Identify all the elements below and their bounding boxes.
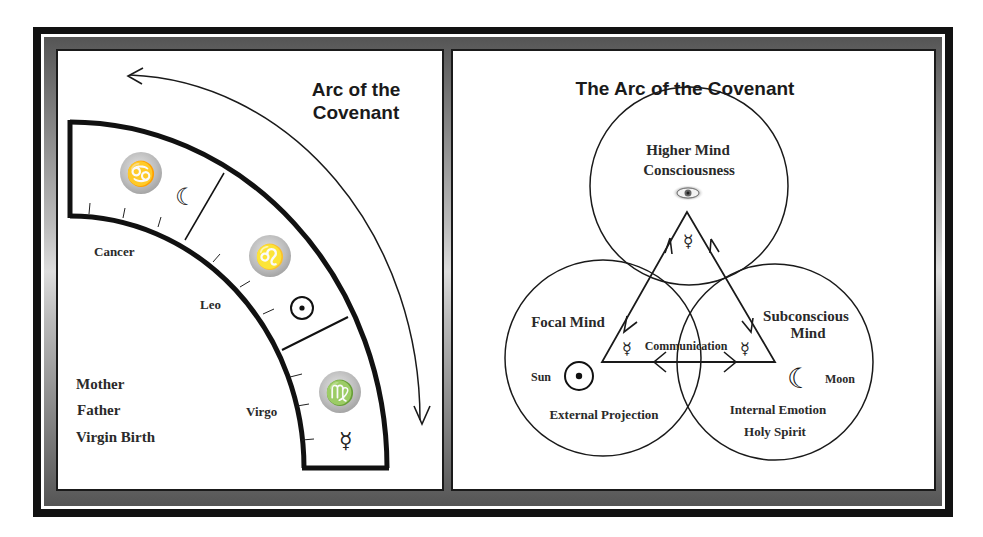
cancer-glyph-icon: ♋ bbox=[126, 160, 156, 188]
leo-label: Leo bbox=[200, 297, 221, 312]
left-side-arrow-down-icon bbox=[624, 316, 637, 332]
moon-icon: ☾ bbox=[787, 363, 812, 394]
trinity-father: Father bbox=[77, 402, 121, 418]
holy-spirit-label: Holy Spirit bbox=[744, 424, 806, 439]
eye-icon bbox=[672, 185, 704, 201]
trinity-mother: Mother bbox=[76, 376, 125, 392]
communication-label: Communication bbox=[645, 339, 728, 353]
subconscious-label: Subconscious bbox=[763, 308, 849, 324]
sun-ruler-icon bbox=[291, 297, 313, 319]
leo-glyph-icon: ♌ bbox=[255, 243, 285, 271]
mercury-right-icon: ☿ bbox=[740, 340, 750, 357]
subconscious-mind-label: Mind bbox=[790, 325, 826, 341]
cancer-label: Cancer bbox=[94, 244, 135, 259]
virgo-label: Virgo bbox=[246, 404, 277, 419]
mercury-left-icon: ☿ bbox=[622, 340, 632, 357]
left-title-line2: Covenant bbox=[313, 102, 400, 123]
higher-mind-label: Higher Mind bbox=[646, 142, 730, 158]
right-title: The Arc of the Covenant bbox=[576, 78, 796, 99]
left-title-line1: Arc of the bbox=[312, 79, 401, 100]
moon-label: Moon bbox=[825, 372, 855, 386]
divider-leo-virgo bbox=[282, 317, 348, 350]
left-diagram: ♋ ☾ ♌ ♍ ☿ Cancer Leo Virgo Mother bbox=[70, 68, 430, 468]
right-side-arrow-up-icon bbox=[710, 239, 719, 253]
sun-icon bbox=[565, 362, 593, 390]
focal-mind-circle bbox=[505, 260, 701, 456]
leo-sign-badge: ♌ bbox=[249, 235, 291, 277]
diagram-canvas: ♋ ☾ ♌ ♍ ☿ Cancer Leo Virgo Mother bbox=[0, 0, 983, 537]
focal-mind-label: Focal Mind bbox=[531, 314, 605, 330]
trinity-virgin-birth: Virgin Birth bbox=[76, 429, 156, 445]
cancer-sign-badge: ♋ bbox=[120, 152, 162, 194]
sun-label: Sun bbox=[531, 370, 551, 384]
mercury-apex-icon: ☿ bbox=[683, 232, 693, 251]
mercury-ruler-icon: ☿ bbox=[339, 428, 353, 453]
consciousness-label: Consciousness bbox=[643, 162, 735, 178]
virgo-sign-badge: ♍ bbox=[319, 371, 361, 413]
diagram-svg: ♋ ☾ ♌ ♍ ☿ Cancer Leo Virgo Mother bbox=[0, 0, 983, 537]
arrowhead-bottom-icon bbox=[414, 406, 430, 424]
internal-emotion-label: Internal Emotion bbox=[730, 402, 827, 417]
external-projection-label: External Projection bbox=[549, 407, 659, 422]
right-diagram: The Arc of the Covenant bbox=[505, 78, 873, 460]
virgo-glyph-icon: ♍ bbox=[325, 379, 355, 407]
moon-ruler-icon: ☾ bbox=[175, 184, 197, 210]
